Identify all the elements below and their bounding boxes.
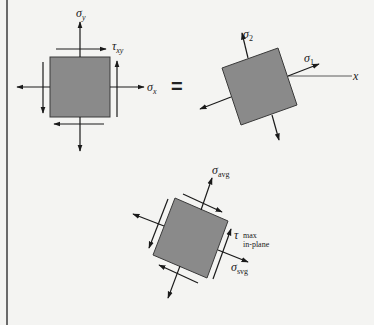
plane-stress-element: σy σx τxy: [17, 6, 157, 151]
sigma-y-label: σy: [76, 6, 86, 22]
sigma-avg-top-label: σavg: [212, 163, 229, 179]
sigma-2-label: σ2: [243, 27, 253, 43]
principal-stress-element: σ2 σ1 x: [200, 27, 359, 140]
max-shear-element: σavg σsvg τ max in-plane: [133, 163, 270, 298]
sigma-1-left-arrow: [200, 97, 231, 109]
tau-xy-label: τxy: [112, 39, 124, 55]
tau-in-plane-subscript: in-plane: [243, 240, 270, 249]
sigma-avg-down-arrow: [168, 266, 180, 298]
tau-max-subscript: max: [243, 231, 257, 240]
sigma-avg-bottom-label: σsvg: [231, 260, 248, 276]
x-axis-label: x: [352, 69, 359, 83]
stress-transformation-diagram: σy σx τxy = σ2 σ1 x: [0, 0, 374, 325]
sigma-1-right-arrow: [288, 64, 319, 76]
sigma-x-label: σx: [147, 80, 157, 96]
sigma-2-down-arrow: [272, 115, 279, 140]
tau-max-symbol: τ: [234, 228, 239, 242]
sigma-1-label: σ1: [304, 51, 314, 67]
stress-element-square: [50, 57, 110, 117]
equals-sign: =: [171, 75, 183, 97]
principal-element-square: [222, 48, 297, 125]
